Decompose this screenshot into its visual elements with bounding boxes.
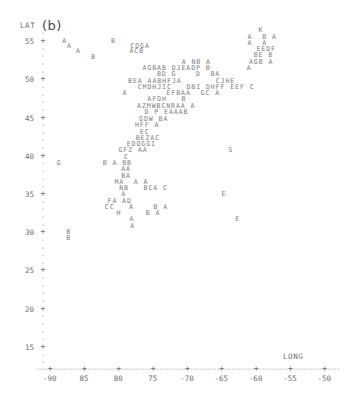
- data-glyph-layer: A BA CDGAA ACBBKA B AA AEEDFBE BA NB AAG…: [0, 0, 355, 404]
- data-glyph-row: S: [228, 147, 233, 154]
- data-glyph-row: B: [66, 235, 71, 242]
- data-glyph-row: AGB A: [249, 59, 273, 66]
- data-glyph-row: NB BCA C: [119, 185, 168, 192]
- data-glyph-row: B: [91, 54, 96, 61]
- data-glyph-row: A: [247, 65, 252, 72]
- data-glyph-row: E: [221, 191, 226, 198]
- data-glyph-row: A ACB: [76, 48, 144, 55]
- data-glyph-row: G: [57, 160, 62, 167]
- data-glyph-row: E: [235, 216, 240, 223]
- lat-long-character-scatter-plot: (b) LAT LONG --+55----+50----+45----+40-…: [0, 0, 355, 404]
- data-glyph-row: H B A: [116, 210, 160, 217]
- data-glyph-row: GFZ AA: [119, 147, 148, 154]
- data-glyph-row: A: [130, 223, 135, 230]
